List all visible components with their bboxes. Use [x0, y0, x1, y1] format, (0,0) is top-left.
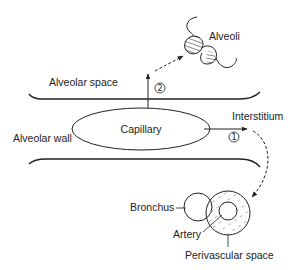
alveolar-wall-label: Alveolar wall: [13, 132, 72, 144]
alveoli-label: Alveoli: [209, 30, 240, 42]
perivascular-space-label: Perivascular space: [185, 249, 274, 261]
dashed-arrow-to-alveoli: [155, 56, 183, 71]
artery-circle: [219, 202, 237, 220]
interstitium-label: Interstitium: [232, 110, 284, 122]
pathway-1-number: 1: [231, 133, 236, 142]
pathway-2-number: 2: [157, 84, 162, 93]
bronchus-label: Bronchus: [130, 201, 174, 213]
dashed-arrow-to-perivascular: [252, 131, 268, 197]
lung-fluid-pathway-diagram: Alveoli Alveolar space 2 Capillary Inter…: [0, 0, 293, 270]
alveolar-space-label: Alveolar space: [49, 76, 118, 88]
capillary-label: Capillary: [121, 123, 163, 135]
artery-label: Artery: [173, 228, 202, 240]
alveoli-shape: [185, 17, 237, 68]
lower-wall-line: [29, 159, 260, 167]
upper-wall-line: [29, 92, 260, 99]
